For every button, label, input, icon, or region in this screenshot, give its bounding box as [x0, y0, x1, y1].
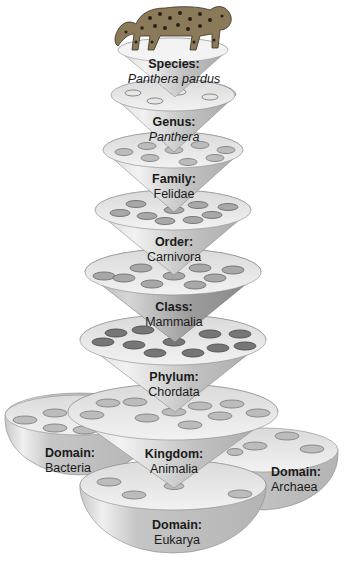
taxon-domain-archaea: Archaea: [271, 480, 321, 495]
rank-genus: Genus:: [149, 115, 200, 130]
taxon-kingdom: Animalia: [145, 462, 203, 477]
taxon-domain-bacteria: Bacteria: [45, 461, 95, 476]
rank-order: Order:: [147, 235, 201, 250]
rank-domain-eukarya: Domain:: [152, 518, 202, 533]
rank-class: Class:: [145, 300, 203, 315]
rank-domain-bacteria: Domain:: [45, 446, 95, 461]
label-species: Species: Panthera pardus: [128, 57, 220, 87]
rank-phylum: Phylum:: [148, 370, 199, 385]
rank-kingdom: Kingdom:: [145, 447, 203, 462]
label-genus: Genus: Panthera: [149, 115, 200, 145]
taxon-phylum: Chordata: [148, 385, 199, 400]
taxon-class: Mammalia: [145, 315, 203, 330]
rank-species: Species:: [128, 57, 220, 72]
label-kingdom: Kingdom: Animalia: [145, 447, 203, 477]
label-class: Class: Mammalia: [145, 300, 203, 330]
label-family: Family: Felidae: [152, 172, 196, 202]
label-order: Order: Carnivora: [147, 235, 201, 265]
taxon-order: Carnivora: [147, 250, 201, 265]
rank-family: Family:: [152, 172, 196, 187]
label-phylum: Phylum: Chordata: [148, 370, 199, 400]
label-domain-bacteria: Domain: Bacteria: [45, 446, 95, 476]
taxon-species: Panthera pardus: [128, 72, 220, 87]
label-domain-archaea: Domain: Archaea: [271, 465, 321, 495]
label-domain-eukarya: Domain: Eukarya: [152, 518, 202, 548]
taxon-domain-eukarya: Eukarya: [152, 533, 202, 548]
rank-domain-archaea: Domain:: [271, 465, 321, 480]
taxon-genus: Panthera: [149, 130, 200, 145]
taxon-family: Felidae: [152, 187, 196, 202]
